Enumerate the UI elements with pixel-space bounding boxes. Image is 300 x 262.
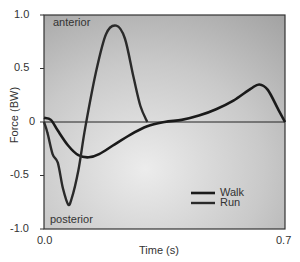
annotation-posterior: posterior: [50, 213, 93, 225]
chart: [0, 0, 300, 262]
y-tick-neg-1.0: -1.0: [10, 222, 29, 234]
legend-run-label: Run: [220, 196, 240, 208]
annotation-anterior: anterior: [53, 16, 90, 28]
x-tick-0.7: 0.7: [276, 234, 291, 246]
y-tick-0: 0: [29, 115, 35, 127]
y-tick-neg-0.5: -0.5: [10, 168, 29, 180]
y-tick-1.0: 1.0: [14, 8, 29, 20]
x-tick-0.0: 0.0: [37, 234, 52, 246]
y-axis-label: Force (BW): [8, 80, 20, 150]
y-tick-0.5: 0.5: [14, 61, 29, 73]
x-axis-label: Time (s): [139, 244, 179, 256]
